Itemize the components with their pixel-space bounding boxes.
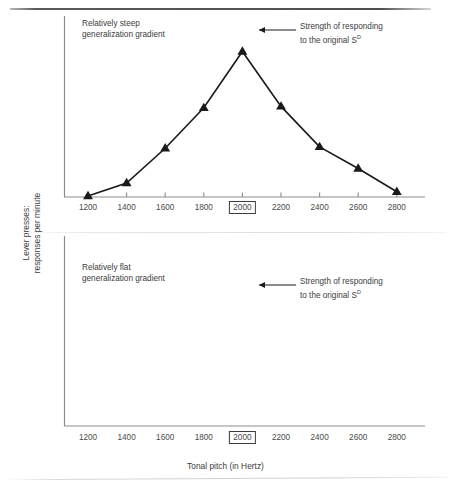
x-tick-label-1600: 1600 — [156, 433, 174, 442]
data-point-marker — [237, 46, 247, 54]
x-tick-label-1600: 1600 — [156, 203, 174, 212]
annotation-arrowhead-bottom — [259, 282, 265, 288]
x-axis-title: Tonal pitch (in Hertz) — [0, 461, 451, 471]
annotation-top: Strength of responding to the original S… — [300, 21, 383, 46]
annotation-bottom: Strength of responding to the original S… — [300, 276, 383, 301]
x-tick-label-2800: 2800 — [388, 203, 406, 212]
annotation-top-line2: to the original S — [300, 36, 357, 45]
y-axis-title: Lever presses: responses per minute — [21, 153, 43, 313]
x-tick-label-2600: 2600 — [349, 203, 367, 212]
x-tick-label-2000: 2000 — [229, 431, 255, 444]
panel-title-bottom: Relatively flat generalization gradient — [82, 262, 165, 284]
x-tick-label-2400: 2400 — [310, 203, 328, 212]
x-tick-label-2400: 2400 — [310, 433, 328, 442]
chart-bottom-flat-gradient — [0, 232, 451, 482]
annotation-top-superscript: D — [357, 34, 361, 40]
x-tick-label-1200: 1200 — [79, 433, 97, 442]
annotation-top-line1: Strength of responding — [300, 22, 383, 31]
x-tick-label-1400: 1400 — [117, 203, 135, 212]
x-tick-label-2000: 2000 — [229, 201, 255, 214]
x-tick-label-2600: 2600 — [349, 433, 367, 442]
chart-top-steep-gradient — [0, 0, 451, 232]
x-tick-label-2200: 2200 — [272, 433, 290, 442]
x-tick-label-1800: 1800 — [195, 433, 213, 442]
generalization-gradient-figure: Relatively steep generalization gradient… — [0, 0, 451, 488]
x-tick-label-1400: 1400 — [117, 433, 135, 442]
annotation-bottom-line1: Strength of responding — [300, 277, 383, 286]
x-tick-label-2200: 2200 — [272, 203, 290, 212]
annotation-arrowhead-top — [259, 27, 265, 33]
x-tick-label-1200: 1200 — [79, 203, 97, 212]
x-tick-label-1800: 1800 — [195, 203, 213, 212]
data-point-marker — [353, 163, 363, 171]
annotation-bottom-line2: to the original S — [300, 291, 357, 300]
panel-title-top: Relatively steep generalization gradient — [82, 18, 165, 40]
data-line-top — [88, 52, 397, 197]
x-tick-label-2800: 2800 — [388, 433, 406, 442]
data-markers-top — [83, 46, 402, 199]
data-point-marker — [392, 186, 402, 194]
annotation-bottom-superscript: D — [357, 289, 361, 295]
